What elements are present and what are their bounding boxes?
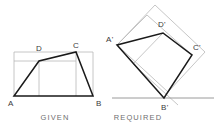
required-caption: REQUIRED [114,113,162,122]
vertex-label-c-prime: C' [193,43,201,52]
required-quadrilateral [117,33,192,98]
technical-drawing-canvas: A B C D GIVEN A' B' C' D' REQUIRED [0,0,214,134]
given-figure-group: A B C D GIVEN [8,41,102,122]
vertex-label-b-prime: B' [161,103,169,112]
given-construction-lines [14,52,93,96]
given-caption: GIVEN [41,113,70,122]
given-quadrilateral [14,52,93,96]
vertex-label-b: B [96,99,102,108]
vertex-label-a-prime: A' [106,35,114,44]
required-figure-group: A' B' C' D' REQUIRED [106,5,214,122]
vertex-label-c: C [73,41,79,50]
vertex-label-d-prime: D' [158,20,166,29]
vertex-label-d: D [36,44,42,53]
required-construction-rect-side-3 [168,52,205,92]
required-construction-rect-side-4 [117,45,168,92]
vertex-label-a: A [8,99,14,108]
